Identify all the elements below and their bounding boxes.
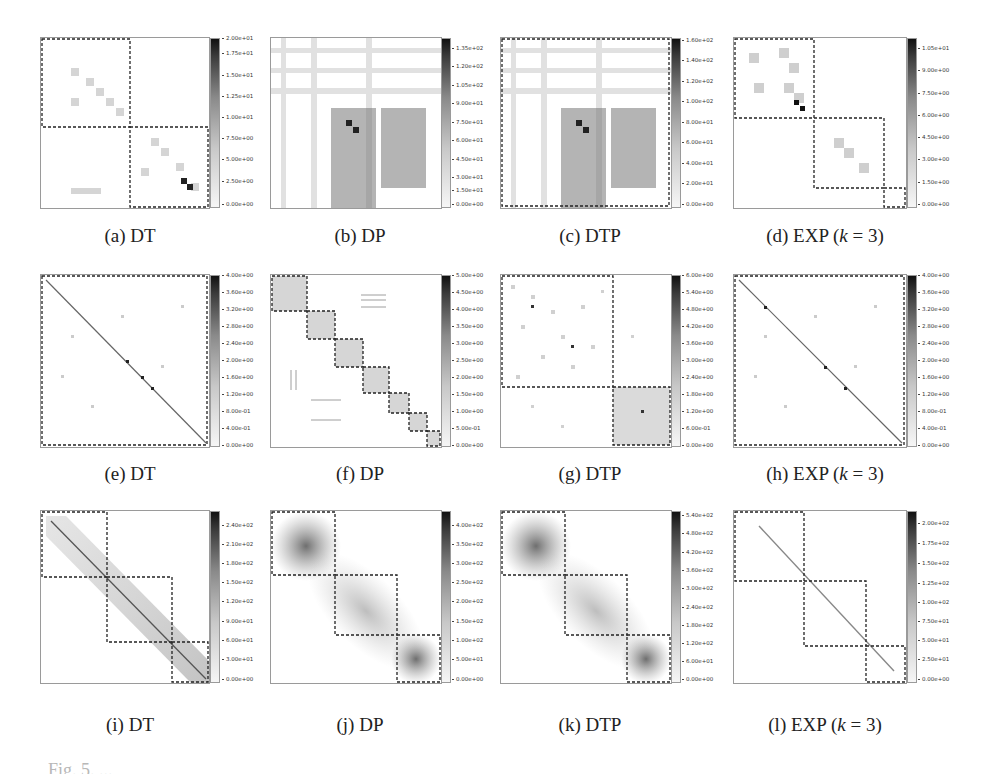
colorbar-k [671,511,681,683]
caption-a: (a) DT [75,225,185,247]
heatmap-a [40,37,210,209]
heatmap-c [500,37,672,209]
colorbar-l [907,511,917,683]
colorbar-h [907,275,917,447]
caption-e: (e) DT [75,463,185,485]
caption-g: (g) DTP [535,463,645,485]
heatmap-e [40,274,210,448]
colorbar-j [441,511,451,683]
caption-d: (d) EXP (k = 3) [735,225,915,247]
colorbar-c [671,38,681,208]
colorbar-f [441,275,451,447]
colorbar-a [210,38,220,208]
colorbar-e [210,275,220,447]
heatmap-f [270,274,442,448]
colorbar-b [441,38,451,208]
caption-h: (h) EXP (k = 3) [735,463,915,485]
heatmap-l [733,510,907,684]
heatmap-h [733,274,907,448]
caption-i: (i) DT [75,714,185,736]
caption-l: (l) EXP (k = 3) [735,714,915,736]
caption-f: (f) DP [305,463,415,485]
heatmap-i [40,510,210,684]
colorbar-g [671,275,681,447]
caption-j: (j) DP [305,714,415,736]
caption-k: (k) DTP [535,714,645,736]
caption-b: (b) DP [305,225,415,247]
caption-c: (c) DTP [535,225,645,247]
colorbar-i [210,511,220,683]
figure-caption-fragment: Fig. 5. ... [48,760,948,774]
heatmap-d [733,37,907,209]
heatmap-k [500,510,672,684]
heatmap-j [270,510,442,684]
colorbar-d [907,38,917,208]
heatmap-b [270,37,442,209]
heatmap-g [500,274,672,448]
